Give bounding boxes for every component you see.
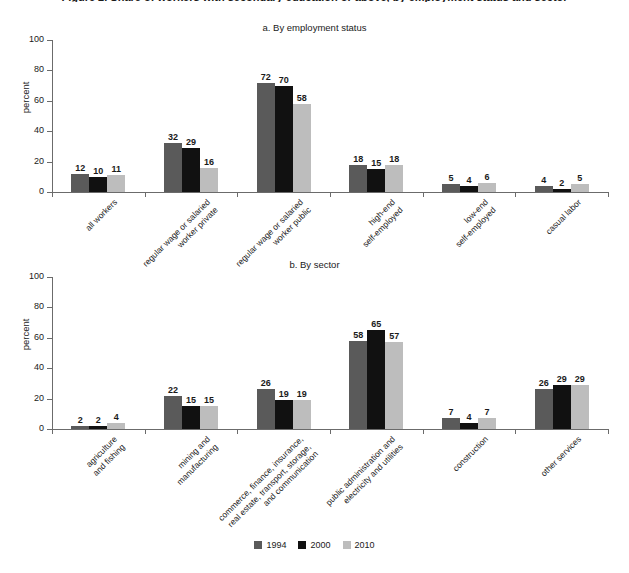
bar-value-label: 29 — [186, 137, 196, 147]
bar-value-label: 4 — [114, 412, 119, 422]
bar: 7 — [478, 418, 496, 429]
bar-group: 546 — [442, 40, 496, 192]
y-tick: 100 — [52, 40, 53, 41]
x-tick-mark — [330, 192, 331, 197]
chart-a-y-axis-label: percent — [20, 82, 31, 114]
y-tick: 20 — [52, 162, 53, 163]
y-tick-mark — [47, 277, 52, 278]
bar-value-label: 2 — [559, 178, 564, 188]
y-tick-label: 20 — [34, 156, 44, 166]
bar: 5 — [571, 184, 589, 192]
x-tick-mark — [515, 429, 516, 434]
y-tick: 40 — [52, 131, 53, 132]
y-tick: 60 — [52, 101, 53, 102]
x-category-label: high-end self-employed — [353, 197, 405, 249]
bar-group: 121011 — [71, 40, 125, 192]
bar: 16 — [200, 168, 218, 192]
bar-value-label: 19 — [279, 389, 289, 399]
bar-group: 727058 — [257, 40, 311, 192]
bar: 4 — [460, 186, 478, 192]
bar-value-label: 65 — [371, 319, 381, 329]
bar: 57 — [385, 342, 403, 429]
bar-value-label: 58 — [297, 93, 307, 103]
x-tick-mark — [330, 429, 331, 434]
legend-swatch — [298, 541, 306, 549]
chart-b-y-axis — [52, 277, 53, 429]
bar-value-label: 2 — [78, 415, 83, 425]
y-tick-label: 0 — [39, 186, 44, 196]
bar-value-label: 10 — [93, 166, 103, 176]
x-category-label: other services — [538, 434, 583, 479]
y-tick-label: 20 — [34, 393, 44, 403]
bar-value-label: 26 — [261, 378, 271, 388]
y-tick-mark — [47, 131, 52, 132]
bar-value-label: 6 — [484, 172, 489, 182]
bar-value-label: 29 — [575, 374, 585, 384]
bar: 29 — [571, 385, 589, 429]
bar-value-label: 18 — [389, 154, 399, 164]
legend-swatch — [343, 541, 351, 549]
y-tick-mark — [47, 399, 52, 400]
bar-value-label: 4 — [541, 175, 546, 185]
legend-item: 2010 — [343, 540, 375, 550]
bar: 18 — [349, 165, 367, 192]
y-tick: 60 — [52, 338, 53, 339]
bar: 10 — [89, 177, 107, 192]
chart-panel-b: b. By sector percent 020406080100 224221… — [0, 259, 629, 539]
x-tick-mark — [145, 192, 146, 197]
bar-value-label: 29 — [557, 374, 567, 384]
y-tick-mark — [47, 40, 52, 41]
bar-value-label: 5 — [448, 173, 453, 183]
bar-group: 262929 — [535, 277, 589, 429]
chart-b-plot-area: percent 020406080100 2242215152619195865… — [52, 277, 608, 429]
x-tick-mark — [237, 192, 238, 197]
x-tick-mark — [52, 429, 53, 434]
y-tick: 20 — [52, 399, 53, 400]
bar-value-label: 18 — [353, 154, 363, 164]
bar-value-label: 12 — [75, 163, 85, 173]
legend-label: 2010 — [355, 540, 375, 550]
bar: 5 — [442, 184, 460, 192]
y-tick-label: 40 — [34, 362, 44, 372]
bar: 4 — [460, 423, 478, 429]
bar: 29 — [182, 148, 200, 192]
x-category-label: commerce, finance, insurance, real estat… — [216, 434, 320, 538]
legend-item: 2000 — [298, 540, 330, 550]
bar-group: 586557 — [349, 277, 403, 429]
y-tick: 40 — [52, 368, 53, 369]
bar: 19 — [293, 400, 311, 429]
bar-value-label: 5 — [577, 173, 582, 183]
y-tick-label: 80 — [34, 64, 44, 74]
bar-value-label: 7 — [448, 407, 453, 417]
bar: 12 — [71, 174, 89, 192]
bar: 65 — [367, 330, 385, 429]
bar-group: 221515 — [164, 277, 218, 429]
bar-value-label: 32 — [168, 132, 178, 142]
x-tick-mark — [237, 429, 238, 434]
y-tick-label: 100 — [29, 34, 44, 44]
x-category-label: low-end self-employed — [446, 197, 498, 249]
chart-legend: 199420002010 — [0, 540, 629, 550]
legend-item: 1994 — [254, 540, 286, 550]
bar-group: 224 — [71, 277, 125, 429]
x-category-label: agriculture and fishing — [83, 434, 127, 478]
y-tick-label: 40 — [34, 125, 44, 135]
bar: 72 — [257, 83, 275, 192]
y-tick-label: 0 — [39, 423, 44, 433]
bar: 26 — [257, 389, 275, 429]
bar: 4 — [107, 423, 125, 429]
y-tick: 100 — [52, 277, 53, 278]
y-tick-mark — [47, 162, 52, 163]
x-category-label: casual labor — [543, 197, 583, 237]
x-tick-mark — [423, 429, 424, 434]
y-tick: 80 — [52, 70, 53, 71]
bar: 7 — [442, 418, 460, 429]
y-tick-mark — [47, 368, 52, 369]
bar-value-label: 58 — [353, 330, 363, 340]
bar: 6 — [478, 183, 496, 192]
x-category-label: public administration and electricity an… — [324, 434, 405, 515]
bar: 58 — [349, 341, 367, 429]
bar: 15 — [200, 406, 218, 429]
x-category-label: mining and manufacturing — [167, 434, 220, 487]
x-category-label: construction — [451, 434, 491, 474]
